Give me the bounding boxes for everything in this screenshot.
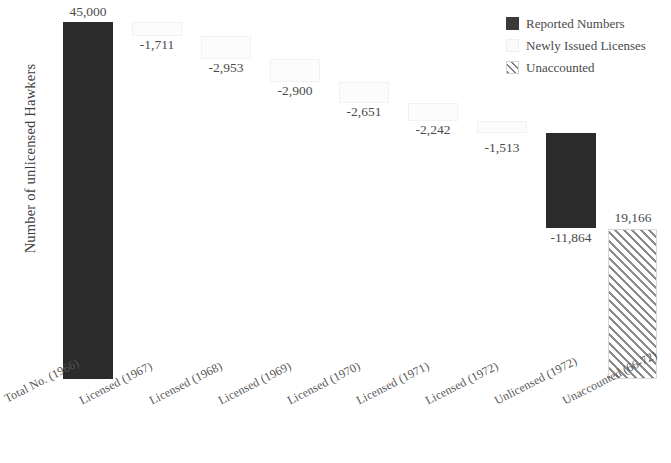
chart-legend: Reported Numbers Newly Issued Licenses U…	[506, 14, 671, 80]
legend-swatch-icon-unaccounted	[506, 61, 519, 74]
x-axis: Total No. (1966) Licensed (1967) License…	[0, 379, 671, 463]
legend-label-reported-numbers: Reported Numbers	[526, 16, 625, 32]
bar-licensed-1969[interactable]	[270, 59, 320, 82]
bar-value-licensed-1969: -2,900	[270, 83, 320, 99]
x-tick-label-total-1966: Total No. (1966)	[2, 356, 82, 406]
bar-value-licensed-1972: -1,513	[477, 140, 527, 156]
bar-value-licensed-1968: -2,953	[201, 60, 251, 76]
legend-swatch-icon-newly-issued-licenses	[506, 39, 519, 52]
waterfall-chart: Number of unlicensed Hawkers 45,000 -1,7…	[0, 0, 671, 463]
bar-licensed-1970[interactable]	[339, 82, 389, 103]
legend-label-newly-issued-licenses: Newly Issued Licenses	[526, 38, 646, 54]
bar-value-total-1966: 45,000	[63, 4, 113, 20]
bar-value-licensed-1970: -2,651	[339, 104, 389, 120]
bar-unlicensed-1972[interactable]	[546, 133, 596, 228]
legend-item-newly-issued-licenses[interactable]: Newly Issued Licenses	[506, 36, 671, 55]
bar-licensed-1968[interactable]	[201, 36, 251, 59]
legend-swatch-icon-reported-numbers	[506, 17, 519, 30]
bar-value-unaccounted-66-72: 19,166	[603, 210, 663, 226]
y-axis-title: Number of unlicensed Hawkers	[22, 9, 39, 309]
legend-item-reported-numbers[interactable]: Reported Numbers	[506, 14, 671, 33]
bar-value-licensed-1967: -1,711	[132, 37, 182, 53]
bar-licensed-1972[interactable]	[477, 121, 527, 133]
legend-label-unaccounted: Unaccounted	[526, 60, 595, 76]
bar-total-1966[interactable]	[63, 22, 113, 379]
bar-licensed-1967[interactable]	[132, 22, 182, 36]
bar-licensed-1971[interactable]	[408, 103, 458, 121]
bar-value-licensed-1971: -2,242	[408, 122, 458, 138]
legend-item-unaccounted[interactable]: Unaccounted	[506, 58, 671, 77]
bar-value-unlicensed-1972: -11,864	[534, 230, 608, 246]
